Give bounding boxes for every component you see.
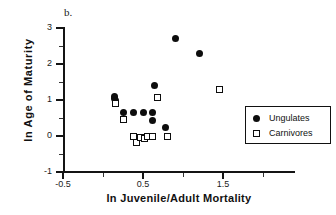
legend-label-ungulates: Ungulates [269,113,310,123]
x-tick-label: 1.5 [208,179,238,189]
plot-area [63,28,295,172]
data-point-ungulates [130,109,137,116]
y-axis-title: ln Age of Maturity [22,10,34,170]
x-tick-minor [263,173,264,177]
data-point-ungulates [172,35,179,42]
y-tick-label: 2 [32,58,52,68]
data-point-ungulates [196,50,203,57]
data-point-carnivores [216,86,223,93]
y-tick-major [56,27,63,29]
y-tick-label: -1 [32,166,52,176]
data-point-ungulates [140,109,147,116]
data-point-ungulates [162,124,169,131]
x-tick-label: 0.5 [128,179,158,189]
y-tick-major [56,135,63,137]
y-tick-label: 0 [32,130,52,140]
open-square-icon [253,130,260,137]
data-point-carnivores [112,100,119,107]
x-tick-minor [103,173,104,177]
legend-label-carnivores: Carnivores [269,128,313,138]
legend-item-ungulates: Ungulates [253,111,310,125]
y-tick-major [56,99,63,101]
data-point-carnivores [149,133,156,140]
x-tick-label: -0.5 [48,179,78,189]
panel-label: b. [64,6,72,18]
y-tick-label: 3 [32,22,52,32]
x-tick-minor [183,173,184,177]
x-axis-title: ln Juvenile/Adult Mortality [63,192,295,204]
data-point-carnivores [154,94,161,101]
data-point-ungulates [151,82,158,89]
y-tick-label: 1 [32,94,52,104]
data-point-carnivores [120,116,127,123]
y-tick-major [56,63,63,65]
legend: Ungulates Carnivores [245,106,331,144]
filled-circle-icon [253,115,260,122]
data-point-carnivores [164,133,171,140]
legend-item-carnivores: Carnivores [253,126,313,140]
scatter-plot-figure: b. ln Age of Maturity ln Juvenile/Adult … [0,0,336,215]
